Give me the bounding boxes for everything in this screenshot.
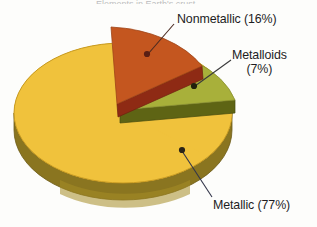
leader-dot-metallic — [179, 147, 185, 153]
callout-label-metalloids-name: Metalloids — [232, 48, 287, 62]
callout-label-metalloids-value: (7%) — [232, 62, 287, 76]
pie-chart-graphic — [0, 0, 317, 227]
leader-dot-metalloids — [191, 83, 197, 89]
callout-label-metalloids: Metalloids (7%) — [232, 48, 287, 76]
callout-label-metallic: Metallic (77%) — [213, 198, 290, 212]
callout-label-nonmetallic: Nonmetallic (16%) — [177, 12, 277, 26]
pie-chart-figure: Elements in Earth's crust — [0, 0, 317, 227]
leader-dot-nonmetallic — [144, 51, 150, 57]
